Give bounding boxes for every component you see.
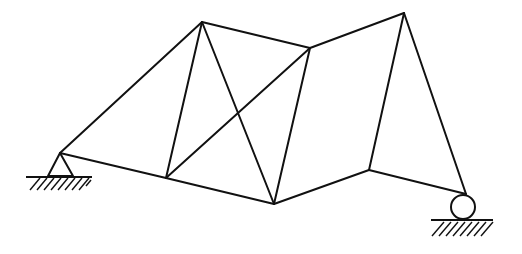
member-B-E <box>202 22 310 48</box>
member-C-D <box>166 178 274 204</box>
member-A-B <box>60 22 202 153</box>
truss-members <box>60 13 466 204</box>
member-E-F <box>310 13 404 48</box>
member-F-H <box>404 13 466 194</box>
member-A-C <box>60 153 166 178</box>
member-G-H <box>369 170 466 194</box>
truss-diagram <box>0 0 522 254</box>
member-B-C <box>166 22 202 178</box>
roller-support-icon <box>431 195 493 236</box>
member-D-E <box>274 48 310 204</box>
member-D-G <box>274 170 369 204</box>
truss-drawing <box>0 0 522 254</box>
member-C-E <box>166 48 310 178</box>
member-F-G <box>369 13 404 170</box>
